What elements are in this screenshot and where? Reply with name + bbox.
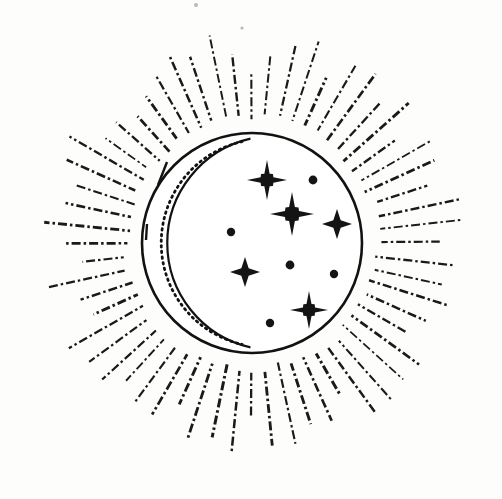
sunburst-ray [339, 341, 392, 401]
paper-speck-group [194, 3, 244, 30]
moon-disc [142, 133, 362, 353]
sunburst-ray [379, 199, 460, 216]
sunburst-ray [152, 354, 187, 414]
sunburst-ray [212, 364, 227, 437]
celestial-illustration-canvas [0, 0, 502, 499]
sunburst-ray [89, 320, 146, 362]
sunburst-ray [328, 348, 375, 412]
sunburst-ray [375, 270, 442, 285]
sunburst-ray [105, 138, 146, 167]
sunburst-ray [367, 294, 426, 320]
sunburst-ray [361, 141, 430, 180]
sunburst-ray [126, 339, 164, 380]
sunburst-ray [116, 122, 159, 161]
sunburst-ray [318, 66, 356, 131]
sunburst-ray [303, 357, 332, 421]
sunburst-ray [134, 348, 175, 404]
dot-center [286, 261, 295, 270]
dot-right [330, 270, 338, 278]
sunburst-ray [352, 141, 395, 172]
sunburst-ray [232, 371, 240, 452]
sunburst-ray [278, 363, 296, 444]
sunburst-ray [76, 185, 134, 204]
sunburst-ray [316, 354, 340, 396]
sunburst-ray [102, 331, 156, 380]
sunburst-ray [375, 257, 455, 266]
sunburst-ray [44, 222, 130, 231]
sunburst-ray [351, 315, 419, 364]
sunburst-ray [305, 78, 326, 126]
dot-lower-left [266, 319, 274, 327]
speck-top-right [240, 26, 243, 29]
sunburst-ray [291, 363, 311, 424]
sunburst-ray [47, 271, 125, 288]
dot-left [227, 228, 235, 236]
sunburst-ray [69, 306, 143, 349]
sunburst-ray [265, 372, 272, 446]
sunburst-ray [156, 75, 189, 133]
sunburst-ray [380, 220, 461, 229]
dot-upper-right [309, 176, 318, 185]
sunburst-ray [66, 203, 131, 217]
sunburst-ray [365, 160, 435, 192]
speck-top [194, 3, 198, 7]
sunburst-ray [338, 102, 381, 149]
sunburst-ray [377, 186, 427, 202]
sunburst-ray [292, 42, 318, 121]
sunburst-ray [210, 36, 227, 117]
sunburst-ray [83, 257, 124, 262]
sunburst-ray [81, 283, 133, 300]
sunburst-ray [327, 74, 375, 140]
sunburst-ray [265, 56, 271, 114]
tick-mid-left [146, 224, 147, 240]
sunburst-ray [170, 57, 201, 128]
sunburst-ray [232, 54, 238, 115]
sunburst-ray [280, 46, 295, 116]
sunburst-ray [343, 325, 404, 380]
sunburst-moon-artwork [0, 0, 502, 499]
